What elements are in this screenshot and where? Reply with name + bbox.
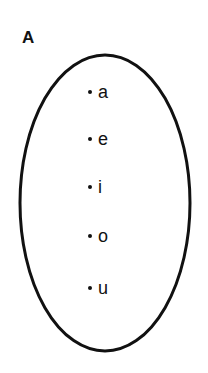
element-label: o: [98, 227, 108, 245]
set-element: e: [88, 130, 108, 148]
bullet-icon: [88, 137, 92, 141]
element-label: e: [98, 130, 108, 148]
element-label: i: [98, 178, 102, 196]
bullet-icon: [88, 185, 92, 189]
element-label: a: [98, 83, 108, 101]
bullet-icon: [88, 90, 92, 94]
bullet-icon: [88, 286, 92, 290]
set-element: i: [88, 178, 102, 196]
set-element: o: [88, 227, 108, 245]
bullet-icon: [88, 234, 92, 238]
element-label: u: [98, 279, 108, 297]
set-a-ellipse: [0, 0, 208, 373]
set-element: a: [88, 83, 108, 101]
set-element: u: [88, 279, 108, 297]
